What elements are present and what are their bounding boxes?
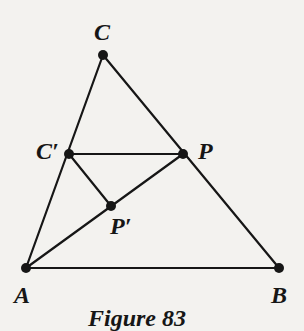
point-P-prime xyxy=(106,201,116,211)
point-P xyxy=(178,149,188,159)
point-B xyxy=(274,263,284,273)
label-A: A xyxy=(14,283,30,307)
label-C-prime: C′ xyxy=(36,139,59,163)
segment-AP xyxy=(26,154,183,268)
label-P-prime: P′ xyxy=(110,214,131,238)
point-C-prime xyxy=(64,149,74,159)
label-B: B xyxy=(271,283,287,307)
label-C: C xyxy=(94,20,110,44)
point-A xyxy=(21,263,31,273)
label-P: P xyxy=(198,139,213,163)
point-C xyxy=(98,50,108,60)
segment-CpPp xyxy=(69,154,111,206)
figure-caption: Figure 83 xyxy=(88,306,186,330)
